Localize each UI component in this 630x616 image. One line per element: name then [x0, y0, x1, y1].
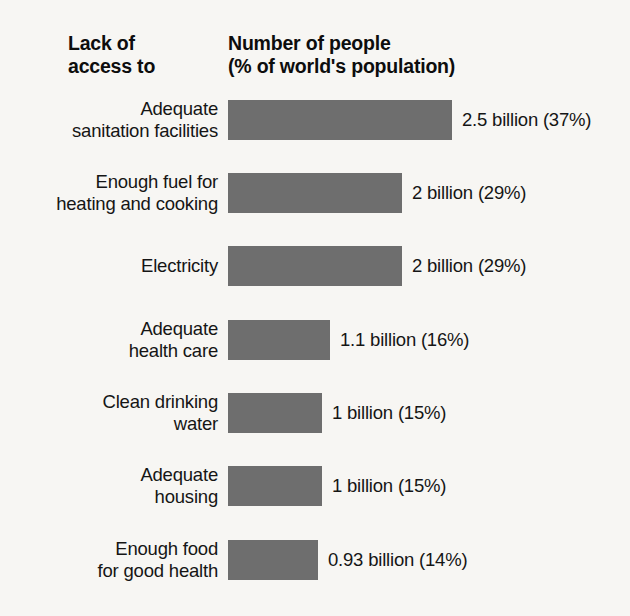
bar — [228, 173, 402, 213]
bar-category-label: Enough fuel for heating and cooking — [0, 171, 218, 215]
bar-category-label: Adequate sanitation facilities — [0, 98, 218, 142]
bar-row: Adequate health care1.1 billion (16%) — [0, 320, 630, 360]
bar-category-label: Clean drinking water — [0, 391, 218, 435]
bar-row: Enough food for good health0.93 billion … — [0, 540, 630, 580]
bar-row: Electricity2 billion (29%) — [0, 246, 630, 286]
bar-row: Adequate sanitation facilities2.5 billio… — [0, 100, 630, 140]
bar-chart-figure: Lack of access to Number of people (% of… — [0, 0, 630, 616]
bar-row: Adequate housing1 billion (15%) — [0, 466, 630, 506]
bar — [228, 466, 322, 506]
bar-category-label: Enough food for good health — [0, 538, 218, 582]
bar-value-label: 2 billion (29%) — [412, 255, 526, 277]
bar — [228, 540, 318, 580]
bar-value-label: 1 billion (15%) — [332, 475, 446, 497]
column-header-value: Number of people (% of world's populatio… — [228, 32, 455, 78]
column-header-category: Lack of access to — [68, 32, 155, 78]
bar-category-label: Electricity — [0, 255, 218, 277]
bar-value-label: 0.93 billion (14%) — [328, 549, 467, 571]
bar — [228, 320, 330, 360]
bar-row: Enough fuel for heating and cooking2 bil… — [0, 173, 630, 213]
bar-row: Clean drinking water1 billion (15%) — [0, 393, 630, 433]
bar — [228, 246, 402, 286]
bar — [228, 393, 322, 433]
bar-value-label: 2.5 billion (37%) — [462, 109, 591, 131]
bar-value-label: 1.1 billion (16%) — [340, 329, 469, 351]
bar-value-label: 1 billion (15%) — [332, 402, 446, 424]
bar-category-label: Adequate health care — [0, 318, 218, 362]
bar — [228, 100, 452, 140]
bar-category-label: Adequate housing — [0, 464, 218, 508]
bar-value-label: 2 billion (29%) — [412, 182, 526, 204]
